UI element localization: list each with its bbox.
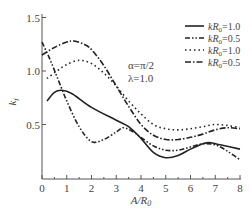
x-tick-label: 3 bbox=[114, 182, 120, 194]
x-ticks: 012345678 bbox=[39, 175, 243, 194]
x-tick-label: 7 bbox=[213, 182, 219, 194]
series-line-0 bbox=[47, 90, 240, 158]
y-tick-label: 1.0 bbox=[26, 65, 40, 77]
lambda-annotation: λ=1.0 bbox=[128, 72, 154, 84]
x-tick-label: 0 bbox=[39, 182, 45, 194]
x-tick-label: 4 bbox=[138, 182, 144, 194]
x-tick-label: 6 bbox=[188, 182, 194, 194]
legend-label: kR0=0.5 bbox=[208, 57, 240, 70]
y-tick-label: 1.5 bbox=[26, 12, 40, 24]
x-tick-label: 8 bbox=[237, 182, 243, 194]
y-axis-title: kf bbox=[6, 98, 20, 106]
x-tick-label: 5 bbox=[163, 182, 169, 194]
x-axis-title: A/R0 bbox=[130, 194, 152, 208]
x-tick-label: 1 bbox=[64, 182, 70, 194]
line-chart: 012345678 0.51.01.5 A/R0 kf α=π/2 λ=1.0 … bbox=[0, 0, 252, 217]
x-tick-label: 2 bbox=[89, 182, 95, 194]
y-ticks: 0.51.01.5 bbox=[26, 12, 46, 131]
annotation: α=π/2 λ=1.0 bbox=[128, 59, 154, 84]
alpha-annotation: α=π/2 bbox=[128, 59, 154, 71]
legend: kR0=1.0kR0=0.5kR0=1.0kR0=0.5 bbox=[185, 21, 240, 70]
y-tick-label: 0.5 bbox=[26, 119, 40, 131]
